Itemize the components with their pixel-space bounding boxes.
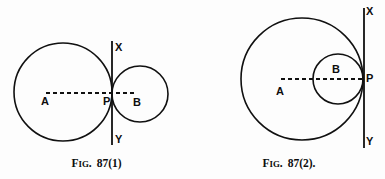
- label-line-top-x: X: [115, 42, 122, 53]
- figure-87-1-drawing: [0, 0, 193, 179]
- figure-87-1: A B P X Y FIG.87(1): [0, 0, 193, 179]
- label-line-top-x: X: [366, 6, 373, 17]
- caption-prefix-first: F: [263, 157, 270, 169]
- caption-separator: .: [280, 157, 283, 169]
- caption-number: 87(2).: [288, 157, 316, 169]
- label-center-b: B: [332, 64, 340, 75]
- caption-prefix-rest: IG: [270, 159, 280, 169]
- caption-separator: .: [89, 157, 92, 169]
- label-tangent-point-p: P: [366, 73, 373, 84]
- caption-prefix-rest: IG: [78, 159, 88, 169]
- figure-87-1-caption: FIG.87(1): [0, 158, 193, 170]
- figure-87-2: A B P X Y FIG.87(2).: [193, 0, 385, 179]
- caption-prefix: FIG.: [71, 157, 91, 169]
- label-line-bottom-y: Y: [115, 134, 122, 145]
- label-line-bottom-y: Y: [366, 136, 373, 147]
- label-center-a: A: [276, 86, 284, 97]
- caption-number: 87(1): [97, 157, 122, 169]
- label-tangent-point-p: P: [103, 96, 110, 107]
- figure-page: A B P X Y FIG.87(1) A B P X Y FIG.87(2).: [0, 0, 385, 179]
- circle-b: [112, 66, 168, 122]
- label-center-a: A: [41, 96, 49, 107]
- figure-87-2-drawing: [193, 0, 385, 179]
- label-center-b: B: [133, 97, 141, 108]
- figure-87-2-caption: FIG.87(2).: [193, 158, 385, 170]
- caption-prefix: FIG.: [263, 157, 283, 169]
